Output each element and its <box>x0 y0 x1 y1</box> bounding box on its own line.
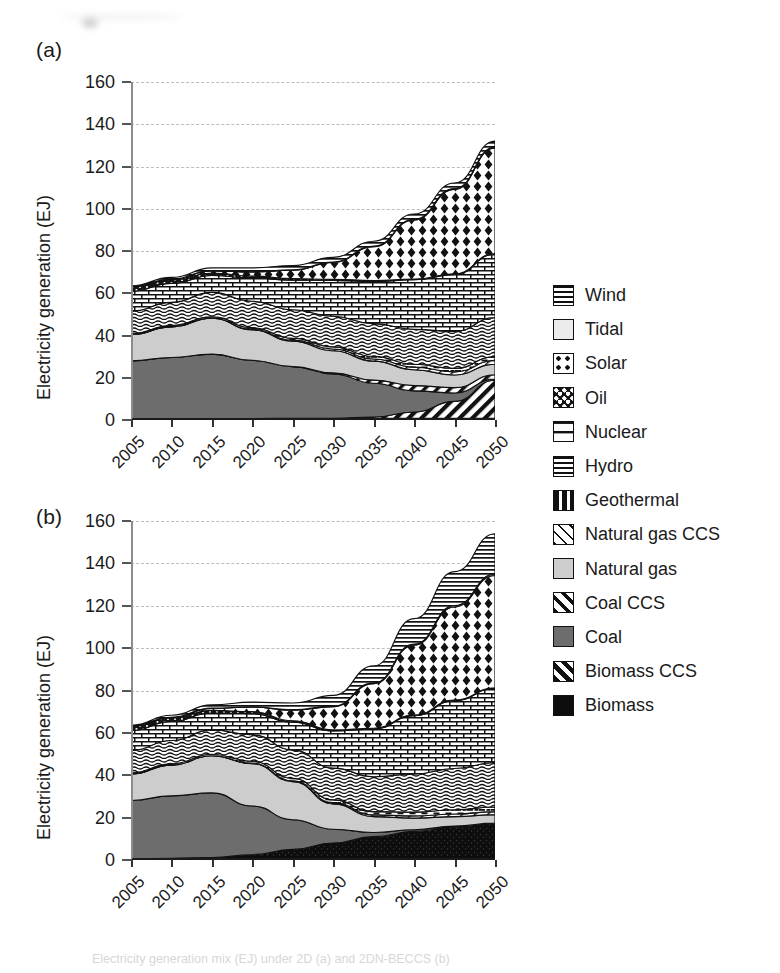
legend-item-label: Coal <box>585 628 622 646</box>
y-tick-label: 0 <box>57 411 115 429</box>
legend-swatch-diagonal-bold-icon <box>553 661 574 682</box>
y-tick-mark <box>122 562 131 564</box>
y-tick-mark <box>122 647 131 649</box>
x-tick-mark <box>333 420 335 427</box>
y-tick-mark <box>122 292 131 294</box>
legend-item-label: Geothermal <box>585 491 679 509</box>
y-tick-label: 0 <box>57 851 115 869</box>
y-tick-label: 120 <box>57 158 115 176</box>
y-tick-label: 160 <box>57 73 115 91</box>
figure-caption: Electricity generation mix (EJ) under 2D… <box>92 952 752 966</box>
y-tick-mark <box>122 732 131 734</box>
axis-frame-a <box>131 82 495 420</box>
legend-item-label: Nuclear <box>585 423 647 441</box>
y-tick-mark <box>122 208 131 210</box>
legend: WindTidalSolarOilNuclearHydroGeothermalN… <box>553 278 779 722</box>
legend-item-label: Biomass CCS <box>585 662 697 680</box>
scan-artifact <box>82 18 98 28</box>
y-tick-label: 40 <box>57 327 115 345</box>
y-tick-label: 140 <box>57 115 115 133</box>
axis-frame-b <box>131 521 495 860</box>
y-tick-mark <box>122 81 131 83</box>
legend-item-coal[interactable]: Coal <box>553 620 779 654</box>
y-tick-label: 20 <box>57 809 115 827</box>
legend-item-label: Natural gas <box>585 560 677 578</box>
legend-swatch-dark-gray-solid-icon <box>553 626 574 647</box>
legend-item-solar[interactable]: Solar <box>553 346 779 380</box>
scan-artifact <box>62 14 182 20</box>
y-tick-label: 20 <box>57 369 115 387</box>
x-tick-mark <box>293 420 295 427</box>
x-tick-mark <box>495 860 497 867</box>
chart-panel-b: 0204060801001201401602005201020152020202… <box>131 521 495 860</box>
legend-item-natural-gas-ccs[interactable]: Natural gas CCS <box>553 517 779 551</box>
y-tick-label: 160 <box>57 512 115 530</box>
x-tick-mark <box>414 860 416 867</box>
y-tick-label: 80 <box>57 682 115 700</box>
legend-swatch-wavy-lines-icon <box>553 456 574 477</box>
legend-item-wind[interactable]: Wind <box>553 278 779 312</box>
x-tick-mark <box>212 860 214 867</box>
x-tick-mark <box>455 420 457 427</box>
legend-item-label: Natural gas CCS <box>585 525 720 543</box>
y-tick-mark <box>122 859 131 861</box>
x-tick-mark <box>414 420 416 427</box>
x-tick-mark <box>212 420 214 427</box>
y-tick-label: 60 <box>57 724 115 742</box>
y-tick-label: 120 <box>57 597 115 615</box>
legend-item-biomass[interactable]: Biomass <box>553 688 779 722</box>
x-tick-mark <box>495 420 497 427</box>
y-tick-label: 80 <box>57 242 115 260</box>
legend-item-tidal[interactable]: Tidal <box>553 312 779 346</box>
legend-item-label: Oil <box>585 389 607 407</box>
legend-item-hydro[interactable]: Hydro <box>553 449 779 483</box>
legend-item-nuclear[interactable]: Nuclear <box>553 415 779 449</box>
legend-item-label: Tidal <box>585 320 623 338</box>
y-tick-mark <box>122 166 131 168</box>
x-tick-mark <box>131 420 133 427</box>
legend-item-geothermal[interactable]: Geothermal <box>553 483 779 517</box>
legend-item-oil[interactable]: Oil <box>553 381 779 415</box>
y-tick-mark <box>122 817 131 819</box>
y-tick-mark <box>122 335 131 337</box>
legend-item-natural-gas[interactable]: Natural gas <box>553 552 779 586</box>
y-axis-title-b: Electricity generation (EJ) <box>34 635 55 840</box>
y-tick-mark <box>122 605 131 607</box>
legend-item-label: Solar <box>585 354 627 372</box>
legend-item-label: Wind <box>585 286 626 304</box>
legend-item-label: Coal CCS <box>585 594 665 612</box>
panel-a-label: (a) <box>36 38 62 62</box>
y-tick-mark <box>122 774 131 776</box>
y-tick-label: 100 <box>57 639 115 657</box>
y-tick-mark <box>122 690 131 692</box>
y-tick-mark <box>122 520 131 522</box>
x-tick-mark <box>293 860 295 867</box>
y-tick-label: 140 <box>57 554 115 572</box>
legend-item-label: Hydro <box>585 457 633 475</box>
legend-swatch-light-gray-solid-icon <box>553 558 574 579</box>
legend-swatch-brick-icon <box>553 421 574 442</box>
x-tick-mark <box>374 860 376 867</box>
legend-item-coal-ccs[interactable]: Coal CCS <box>553 586 779 620</box>
legend-item-biomass-ccs[interactable]: Biomass CCS <box>553 654 779 688</box>
x-tick-mark <box>333 860 335 867</box>
chart-panel-a: 0204060801001201401602005201020152020202… <box>131 82 495 420</box>
x-tick-mark <box>252 420 254 427</box>
y-tick-mark <box>122 377 131 379</box>
x-tick-mark <box>455 860 457 867</box>
x-tick-mark <box>171 860 173 867</box>
legend-swatch-checkerboard-diamond-icon <box>553 353 574 374</box>
y-tick-mark <box>122 123 131 125</box>
legend-swatch-horizontal-lines-icon <box>553 285 574 306</box>
legend-swatch-light-solid-icon <box>553 319 574 340</box>
y-axis-title-a: Electricity generation (EJ) <box>34 195 55 400</box>
y-tick-label: 100 <box>57 200 115 218</box>
x-tick-mark <box>171 420 173 427</box>
x-tick-mark <box>374 420 376 427</box>
legend-swatch-dashed-lines-icon <box>553 490 574 511</box>
legend-swatch-diagonal-thick-icon <box>553 592 574 613</box>
y-tick-label: 40 <box>57 766 115 784</box>
legend-swatch-diagonal-thin-icon <box>553 524 574 545</box>
y-tick-mark <box>122 419 131 421</box>
legend-swatch-black-solid-icon <box>553 695 574 716</box>
